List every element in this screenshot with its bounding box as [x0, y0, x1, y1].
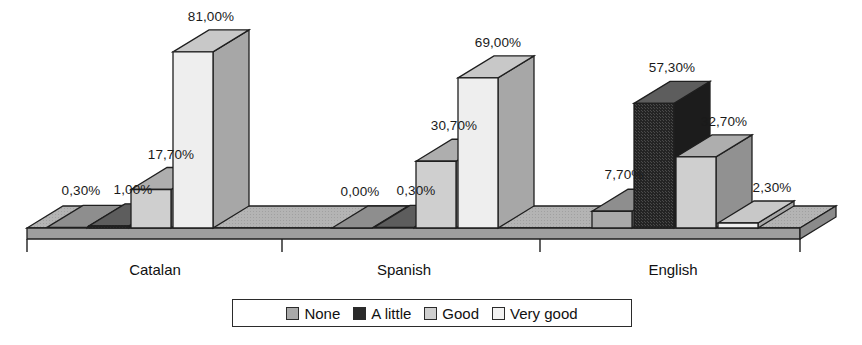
legend-item-very-good: Very good — [492, 306, 578, 321]
bar-front-face — [634, 103, 674, 228]
legend-swatch-very-good — [492, 307, 505, 320]
bar-front-face — [173, 52, 213, 228]
bar-chart-3d: 0,30%1,00%17,70%81,00%0,00%0,30%30,70%69… — [0, 0, 862, 345]
value-label: 0,00% — [341, 184, 380, 199]
chart-canvas: 0,30%1,00%17,70%81,00%0,00%0,30%30,70%69… — [0, 0, 862, 345]
legend-label-a-little: A little — [371, 306, 411, 321]
legend-label-good: Good — [442, 306, 479, 321]
category-label-catalan: Catalan — [129, 261, 181, 278]
value-label: 69,00% — [475, 35, 521, 50]
value-label: 17,70% — [148, 147, 194, 162]
chart-legend: None A little Good Very good — [232, 299, 632, 327]
legend-item-a-little: A little — [353, 306, 411, 321]
bar-front-face — [718, 223, 758, 228]
bar-front-face — [676, 157, 716, 228]
legend-swatch-good — [424, 307, 437, 320]
bar-catalan-very-good — [173, 30, 249, 228]
value-label: 57,30% — [649, 60, 695, 75]
bar-spanish-very-good — [458, 56, 534, 228]
legend-label-very-good: Very good — [510, 306, 578, 321]
bar-front-face — [89, 226, 129, 228]
legend-label-none: None — [304, 306, 340, 321]
value-label: 81,00% — [188, 9, 234, 24]
bar-front-face — [592, 211, 632, 228]
legend-item-good: Good — [424, 306, 479, 321]
floor-front-edge — [27, 228, 800, 239]
value-label: 7,70% — [605, 167, 644, 182]
value-label: 1,00% — [114, 182, 153, 197]
value-label: 30,70% — [431, 118, 477, 133]
category-label-english: English — [648, 261, 697, 278]
value-label: 0,30% — [62, 183, 101, 198]
bar-side-face — [498, 56, 534, 228]
category-label-spanish: Spanish — [377, 261, 431, 278]
legend-swatch-none — [286, 307, 299, 320]
value-label: 0,30% — [397, 183, 436, 198]
value-label: 32,70% — [701, 114, 747, 129]
category-axis — [27, 239, 800, 252]
category-labels: CatalanSpanishEnglish — [129, 261, 697, 278]
legend-item-none: None — [286, 306, 340, 321]
legend-swatch-a-little — [353, 307, 366, 320]
value-label: 2,30% — [753, 180, 792, 195]
bar-side-face — [213, 30, 249, 228]
bar-front-face — [458, 78, 498, 228]
